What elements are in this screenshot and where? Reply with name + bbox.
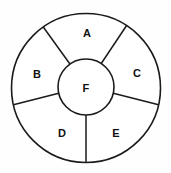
sector-label-c: C xyxy=(133,67,141,79)
sector-label-e: E xyxy=(112,127,120,139)
wheel-diagram-svg: A B C D E F xyxy=(0,0,171,173)
sector-label-d: D xyxy=(58,127,66,139)
sector-label-b: B xyxy=(33,68,41,80)
sector-label-a: A xyxy=(83,27,91,39)
wheel-diagram: A B C D E F xyxy=(0,0,171,173)
sector-label-f: F xyxy=(83,82,90,94)
